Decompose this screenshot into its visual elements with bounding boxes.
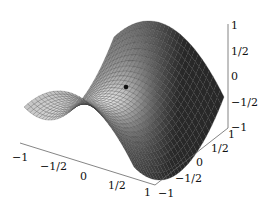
y-tick: −1/2	[175, 172, 202, 185]
x-tick: 1	[144, 186, 151, 199]
y-tick: −1	[158, 187, 174, 200]
z-axis-tick-labels: 1 1/2 0 −1/2 −1	[231, 19, 258, 134]
saddle-point-marker	[124, 85, 129, 90]
x-tick: −1/2	[40, 160, 67, 173]
z-tick: 0	[231, 70, 238, 83]
x-tick: 0	[80, 170, 87, 183]
z-tick: −1/2	[231, 96, 258, 109]
y-tick: 1/2	[211, 142, 229, 155]
y-tick: 0	[196, 156, 203, 169]
x-tick: 1/2	[108, 179, 126, 192]
plot-canvas: −1 −1/2 0 1/2 1 −1 −1/2 0 1/2 1 1 1/2 0 …	[0, 0, 269, 212]
x-tick: −1	[12, 151, 28, 164]
z-tick: −1	[231, 121, 247, 134]
saddle-surface-plot: −1 −1/2 0 1/2 1 −1 −1/2 0 1/2 1 1 1/2 0 …	[0, 0, 269, 212]
surface-mesh	[24, 21, 224, 180]
z-tick: 1/2	[231, 45, 249, 58]
z-tick: 1	[231, 19, 238, 32]
